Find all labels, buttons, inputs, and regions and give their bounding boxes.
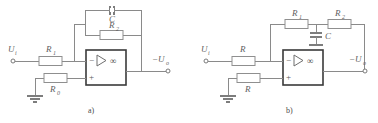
circuit-b-group: − + ∞ U i R: [201, 8, 367, 115]
circuit-b-input-terminal[interactable]: [204, 59, 208, 63]
circuit-a-fb-r2-left-lead: [85, 24, 100, 35]
circuit-b-feedback-resistor-1-body: [285, 20, 308, 29]
circuit-b-feedback-resistor-2-label: R: [334, 8, 341, 18]
opamp-b-gain-symbol: ∞: [307, 56, 313, 66]
circuit-b-caption: b): [286, 106, 293, 115]
circuit-b-input-resistor-body: [232, 57, 255, 66]
circuit-a-fb-r2-right-lead: [123, 10, 141, 35]
circuit-b-feedback-resistor-1-label: R: [291, 8, 298, 18]
circuit-a-input-terminal[interactable]: [11, 59, 15, 63]
circuit-b-feedback-resistor-1-sub: 1: [299, 14, 302, 20]
circuit-a-balance-resistor-sub: 0: [57, 90, 60, 96]
circuit-b-balance-resistor-body: [237, 74, 260, 83]
circuit-a-feedback-resistor-body: [100, 31, 123, 40]
circuit-a-capacitor-gap: [110, 8, 114, 12]
opamp-a-inverting-sign: −: [89, 55, 94, 65]
opamp-b-noninverting-sign: +: [286, 72, 291, 82]
circuit-a-input-label-sub: i: [15, 50, 17, 56]
circuit-a-input-resistor-body: [39, 57, 62, 66]
circuit-b-input-label: U: [201, 44, 208, 54]
circuit-b-capacitor-label: C: [325, 31, 332, 41]
circuit-a-output-terminal[interactable]: [166, 69, 170, 73]
circuit-b-output-label: −U: [349, 54, 362, 64]
circuit-b-balance-resistor-label: R: [244, 84, 251, 94]
circuit-a-group: − + ∞: [8, 6, 170, 116]
opamp-a-noninverting-sign: +: [89, 72, 94, 82]
circuit-a-balance-resistor-label: R: [49, 84, 56, 94]
circuit-a-caption: a): [88, 106, 95, 115]
circuit-a-input-resistor-label: R: [45, 44, 52, 54]
opamp-a-gain-symbol: ∞: [110, 56, 116, 66]
circuit-diagram-canvas: − + ∞: [0, 0, 378, 123]
circuit-b-feedback-resistor-2-sub: 2: [342, 14, 345, 20]
circuit-b-output-terminal[interactable]: [363, 69, 367, 73]
opamp-b-inverting-sign: −: [286, 55, 291, 65]
circuit-a-input-label: U: [8, 44, 15, 54]
circuit-b-input-resistor-label: R: [239, 44, 246, 54]
circuit-a-output-label: −U: [152, 54, 165, 64]
circuit-b-output-label-sub: o: [363, 60, 366, 66]
circuit-b-input-label-sub: i: [208, 50, 210, 56]
circuit-a-capacitor-label: C: [109, 14, 116, 24]
circuit-a-output-label-sub: o: [166, 60, 169, 66]
circuit-b-feedback-resistor-2-body: [328, 20, 351, 29]
circuit-a-input-resistor-sub: 1: [53, 50, 56, 56]
circuit-a-feedback-resistor-sub: 2: [116, 26, 119, 32]
circuit-a-balance-resistor-body: [44, 74, 67, 83]
figure-root: − + ∞: [0, 0, 378, 123]
